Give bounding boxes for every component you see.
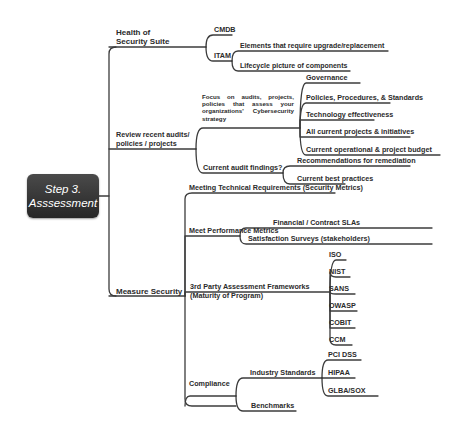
node-owasp[interactable]: OWASP — [329, 302, 356, 311]
node-industry-standards[interactable]: Industry Standards — [250, 369, 316, 378]
node-nist[interactable]: NIST — [329, 268, 345, 277]
node-itam[interactable]: ITAM — [214, 52, 231, 61]
node-financial-slas[interactable]: Financial / Contract SLAs — [273, 219, 360, 228]
node-benchmarks[interactable]: Benchmarks — [251, 402, 294, 411]
root-title-line1: Step 3. — [29, 182, 97, 196]
node-label-line2: policies / projects — [116, 140, 190, 149]
node-policies-procedures[interactable]: Policies, Procedures, & Standards — [306, 94, 423, 103]
node-sans[interactable]: SANS — [329, 285, 349, 294]
node-recommendations-remediation[interactable]: Recommendations for remediation — [297, 157, 416, 166]
node-current-projects[interactable]: All current projects & initiatives — [306, 128, 414, 137]
node-cmdb[interactable]: CMDB — [214, 26, 236, 35]
node-elements-upgrade[interactable]: Elements that require upgrade/replacemen… — [240, 42, 384, 50]
node-assessment-frameworks[interactable]: 3rd Party Assessment Frameworks (Maturit… — [190, 283, 310, 300]
node-pci-dss[interactable]: PCI DSS — [328, 351, 357, 360]
node-measure-security[interactable]: Measure Security — [116, 287, 182, 296]
node-review-recent-audits[interactable]: Review recent audits/ policies / project… — [116, 131, 190, 148]
node-governance[interactable]: Governance — [306, 74, 348, 83]
node-hipaa[interactable]: HIPAA — [328, 369, 350, 378]
node-label-line2: Security Suite — [116, 37, 169, 46]
node-glba-sox[interactable]: GLBA/SOX — [328, 387, 366, 396]
node-iso[interactable]: ISO — [329, 251, 341, 260]
mind-map: Step 3. Asssessment Health of Security S… — [0, 0, 452, 438]
node-current-audit-findings[interactable]: Current audit findings? — [203, 164, 282, 173]
node-cobit[interactable]: COBIT — [329, 319, 351, 328]
root-title-line2: Asssessment — [29, 196, 97, 210]
node-lifecycle-picture[interactable]: Lifecycle picture of components — [240, 62, 347, 70]
node-ccm[interactable]: CCM — [329, 336, 345, 345]
node-focus-on-audits[interactable]: Focus on audits, projects, policies that… — [202, 93, 294, 122]
node-operational-budget[interactable]: Current operational & project budget — [306, 146, 432, 155]
node-technology-effectiveness[interactable]: Technology effectiveness — [306, 111, 393, 120]
node-satisfaction-surveys[interactable]: Satisfaction Surveys (stakeholders) — [248, 235, 370, 244]
node-health-of-security-suite[interactable]: Health of Security Suite — [116, 28, 169, 46]
root-node[interactable]: Step 3. Asssessment — [27, 174, 99, 218]
node-label-line2: (Maturity of Program) — [190, 292, 310, 301]
node-technical-requirements[interactable]: Meeting Technical Requirements (Security… — [189, 184, 363, 193]
node-label-line1: Health of — [116, 28, 169, 37]
node-compliance[interactable]: Compliance — [189, 380, 230, 389]
connector-lines — [0, 0, 452, 438]
